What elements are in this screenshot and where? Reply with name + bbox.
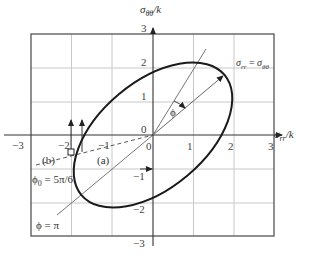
- x-tick: −1: [98, 140, 110, 151]
- y-tick: 1: [141, 91, 147, 102]
- y-axis-label: σθθ/k: [140, 4, 161, 18]
- y-tick: 0: [141, 124, 147, 135]
- equal-stress-label: σrr = σθθ: [236, 58, 269, 71]
- x-tick: 3: [268, 141, 274, 152]
- x-tick: −3: [12, 140, 24, 151]
- phi-pi-label: ϕ = π: [36, 220, 59, 231]
- path-a-label: (a): [97, 155, 109, 166]
- y-tick: −1: [133, 171, 145, 182]
- y-tick: 2: [141, 57, 147, 68]
- x-tick: 0: [146, 141, 152, 152]
- stress-diagram: σrr/k σθθ/k −3 −2 −1 0 1 2 3 3 2 1 0 −1 …: [0, 0, 319, 256]
- path-b-label: (b): [42, 155, 55, 166]
- equal-stress-line: [153, 76, 223, 135]
- x-tick: 1: [187, 141, 193, 152]
- phi-angle-label: ϕ: [170, 107, 176, 118]
- x-tick: 2: [228, 141, 234, 152]
- y-tick: −2: [133, 204, 145, 215]
- phi0-label: ϕ0 = 5π/6: [32, 174, 73, 188]
- y-tick: 3: [141, 23, 147, 34]
- x-axis-label: σrr/k: [274, 129, 294, 143]
- x-tick: −2: [58, 140, 70, 151]
- diagram-canvas: [0, 0, 319, 256]
- y-tick: −3: [133, 238, 145, 249]
